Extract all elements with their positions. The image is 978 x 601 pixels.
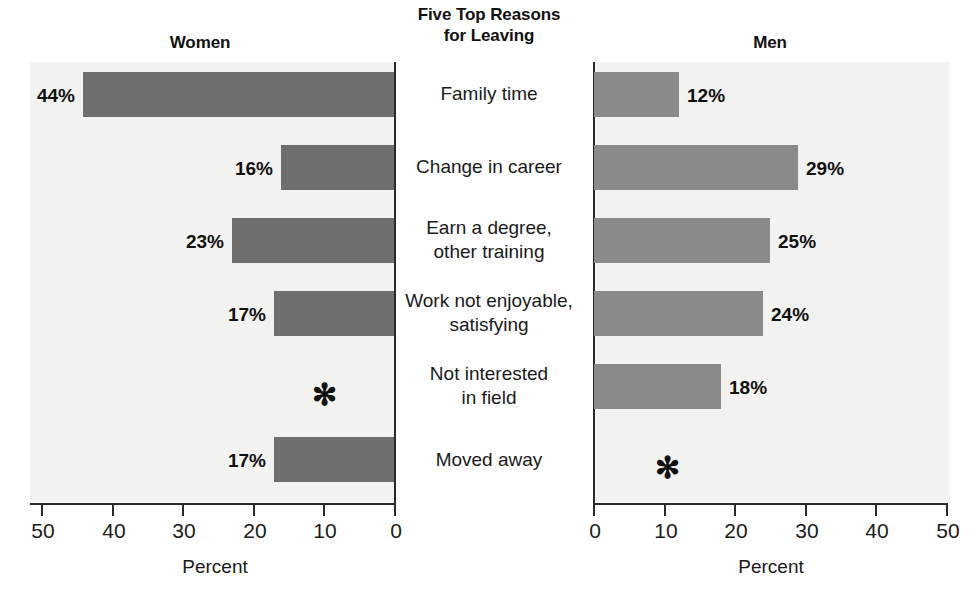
category-label-work-not-enjoyable: Work not enjoyable, satisfying xyxy=(399,289,579,337)
bar-value-men-not-interested: 18% xyxy=(729,377,799,399)
bar-value-men-earn-a-degree: 25% xyxy=(778,231,848,253)
axis-tick-label-men-10: 10 xyxy=(646,519,686,543)
panel-heading-women: Women xyxy=(110,33,290,53)
chart-title-line-1: Five Top Reasons xyxy=(389,4,589,25)
category-label-moved-away-line-1: Moved away xyxy=(399,448,579,472)
bar-men-family-time xyxy=(594,72,679,117)
category-label-moved-away: Moved away xyxy=(399,448,579,472)
axis-title-men: Percent xyxy=(691,556,851,578)
bar-women-family-time xyxy=(83,72,394,117)
category-label-earn-a-degree-line-1: Earn a degree, xyxy=(399,216,579,240)
bar-value-women-family-time: 44% xyxy=(5,85,75,107)
axis-spine-men xyxy=(593,62,595,504)
axis-tick-label-women-30: 30 xyxy=(164,519,204,543)
axis-tick-men-10 xyxy=(664,505,666,516)
axis-title-women: Percent xyxy=(135,556,295,578)
bar-women-moved-away xyxy=(274,437,394,482)
category-label-earn-a-degree: Earn a degree, other training xyxy=(399,216,579,264)
axis-tick-women-10 xyxy=(323,505,325,516)
bar-women-work-not-enjoyable xyxy=(274,291,394,336)
axis-tick-label-women-0: 0 xyxy=(376,519,416,543)
bar-value-women-moved-away: 17% xyxy=(196,450,266,472)
axis-tick-label-men-0: 0 xyxy=(575,519,615,543)
category-label-not-interested: Not interested in field xyxy=(399,362,579,410)
chart-title: Five Top Reasons for Leaving xyxy=(389,4,589,46)
bar-value-men-family-time: 12% xyxy=(687,85,757,107)
axis-tick-women-30 xyxy=(182,505,184,516)
suppressed-marker-men-moved-away: ✻ xyxy=(655,453,680,483)
axis-tick-label-women-20: 20 xyxy=(235,519,275,543)
bar-men-earn-a-degree xyxy=(594,218,770,263)
axis-tick-label-men-40: 40 xyxy=(857,519,897,543)
bar-value-women-change-in-career: 16% xyxy=(203,158,273,180)
bar-value-women-earn-a-degree: 23% xyxy=(154,231,224,253)
category-label-earn-a-degree-line-2: other training xyxy=(399,240,579,264)
chart-title-line-2: for Leaving xyxy=(389,25,589,46)
category-label-not-interested-line-2: in field xyxy=(399,386,579,410)
plot-area-men xyxy=(594,62,950,502)
axis-spine-women xyxy=(394,62,396,504)
bar-men-work-not-enjoyable xyxy=(594,291,763,336)
bar-women-earn-a-degree xyxy=(232,218,394,263)
axis-tick-women-50 xyxy=(41,505,43,516)
bar-value-men-change-in-career: 29% xyxy=(806,158,876,180)
axis-tick-label-men-30: 30 xyxy=(787,519,827,543)
category-label-change-in-career: Change in career xyxy=(399,155,579,179)
axis-tick-label-women-40: 40 xyxy=(94,519,134,543)
plot-area-women xyxy=(30,62,395,502)
category-label-family-time-line-1: Family time xyxy=(399,82,579,106)
bar-value-women-work-not-enjoyable: 17% xyxy=(196,304,266,326)
category-label-family-time: Family time xyxy=(399,82,579,106)
axis-baseline-men xyxy=(593,503,948,505)
category-label-work-not-enjoyable-line-1: Work not enjoyable, xyxy=(399,289,579,313)
panel-heading-men: Men xyxy=(680,33,860,53)
axis-tick-men-20 xyxy=(734,505,736,516)
suppressed-marker-women-not-interested: ✻ xyxy=(312,380,337,410)
bar-value-men-work-not-enjoyable: 24% xyxy=(771,304,841,326)
axis-tick-label-men-20: 20 xyxy=(716,519,756,543)
axis-tick-men-0 xyxy=(593,505,595,516)
category-label-work-not-enjoyable-line-2: satisfying xyxy=(399,313,579,337)
axis-tick-label-men-50: 50 xyxy=(928,519,968,543)
axis-tick-men-30 xyxy=(805,505,807,516)
axis-tick-label-women-50: 50 xyxy=(23,519,63,543)
axis-tick-women-40 xyxy=(112,505,114,516)
bar-men-change-in-career xyxy=(594,145,798,190)
axis-tick-women-20 xyxy=(253,505,255,516)
bar-men-not-interested xyxy=(594,364,721,409)
axis-tick-women-0 xyxy=(394,505,396,516)
axis-tick-label-women-10: 10 xyxy=(305,519,345,543)
bar-women-change-in-career xyxy=(281,145,394,190)
axis-baseline-women xyxy=(30,503,396,505)
axis-tick-men-40 xyxy=(875,505,877,516)
axis-tick-men-50 xyxy=(946,505,948,516)
category-label-change-in-career-line-1: Change in career xyxy=(399,155,579,179)
chart-figure: Five Top Reasons for Leaving Women Men 4… xyxy=(0,0,978,601)
category-label-not-interested-line-1: Not interested xyxy=(399,362,579,386)
